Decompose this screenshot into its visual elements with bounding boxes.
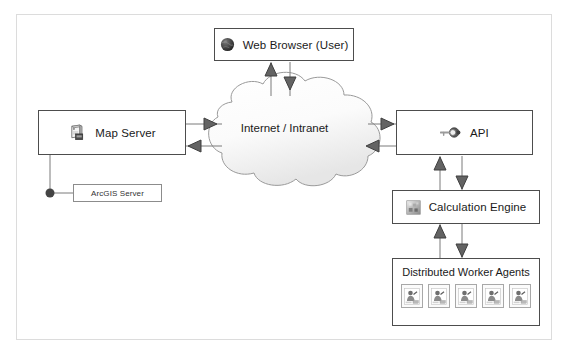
node-distributed-worker-agents[interactable]: Distributed Worker Agents — [392, 258, 540, 326]
diagram-canvas: Web Browser (User) Map Server ArcGIS Ser… — [0, 0, 568, 355]
worker-agent-icon — [431, 288, 447, 305]
connector-calc-workers — [440, 224, 462, 258]
node-map-server-label: Map Server — [95, 127, 155, 139]
worker-agent-icon — [512, 288, 528, 305]
server-icon — [68, 123, 87, 142]
node-api[interactable]: API — [396, 110, 533, 155]
worker-agent-5[interactable] — [509, 284, 531, 308]
node-web-browser-label: Web Browser (User) — [243, 39, 349, 51]
worker-agent-icon — [485, 288, 501, 305]
worker-agent-1[interactable] — [401, 284, 423, 308]
worker-agent-icon — [458, 288, 474, 305]
node-map-server[interactable]: Map Server — [38, 110, 186, 155]
arrow-left-to-mapserver — [188, 140, 201, 152]
arrow-up-to-api — [434, 157, 446, 170]
chip-icon — [406, 200, 421, 215]
worker-agent-2[interactable] — [428, 284, 450, 308]
worker-agent-4[interactable] — [482, 284, 504, 308]
arrow-right-to-api — [381, 118, 394, 130]
node-calculation-engine[interactable]: Calculation Engine — [392, 190, 540, 224]
node-arcgis-server-label: ArcGIS Server — [91, 189, 144, 198]
connector-mapserver-arcgis — [50, 155, 73, 193]
key-icon — [440, 126, 462, 139]
annotation-anchor-dot — [46, 189, 55, 198]
node-api-label: API — [470, 127, 489, 139]
node-distributed-worker-agents-label: Distributed Worker Agents — [393, 266, 539, 278]
arrow-down-to-calc — [456, 176, 468, 189]
arrow-up-to-browser — [265, 63, 277, 76]
node-web-browser[interactable]: Web Browser (User) — [214, 28, 354, 61]
globe-icon — [220, 37, 235, 52]
node-internet-intranet-label: Internet / Intranet — [207, 122, 362, 134]
connector-api-calc — [440, 156, 462, 190]
arrow-down-to-workers — [456, 244, 468, 257]
worker-agent-3[interactable] — [455, 284, 477, 308]
worker-agent-icon — [404, 288, 420, 305]
worker-agent-list — [393, 284, 539, 308]
arrow-up-to-calc — [434, 225, 446, 238]
node-calculation-engine-label: Calculation Engine — [429, 201, 527, 213]
node-arcgis-server[interactable]: ArcGIS Server — [73, 184, 162, 202]
